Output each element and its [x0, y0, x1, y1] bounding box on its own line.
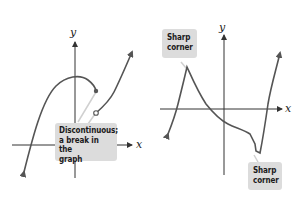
right-leader-top	[181, 62, 186, 68]
callout-line-1: Sharp	[167, 33, 192, 43]
callout-line-1: Sharp	[253, 166, 277, 176]
right-x-label: x	[285, 102, 292, 115]
sharp-corner-callout-top: Sharp corner	[162, 29, 197, 58]
left-curve-part-2	[96, 52, 132, 113]
open-endpoint	[94, 111, 99, 116]
callout-line-2: a break in the	[59, 136, 113, 155]
callout-line-2: corner	[253, 176, 277, 186]
sharp-corner-callout-bottom: Sharp corner	[248, 162, 282, 190]
right-y-label: y	[218, 21, 226, 34]
discontinuous-callout: Discontinuous; a break in the graph	[55, 123, 117, 161]
callout-line-1: Discontinuous;	[59, 126, 113, 136]
right-leader-bottom	[254, 155, 258, 162]
callout-line-3: graph	[59, 155, 113, 165]
left-y-label: y	[69, 26, 77, 39]
left-x-label: x	[136, 138, 143, 151]
callout-line-2: corner	[167, 43, 192, 53]
closed-endpoint	[94, 89, 98, 93]
